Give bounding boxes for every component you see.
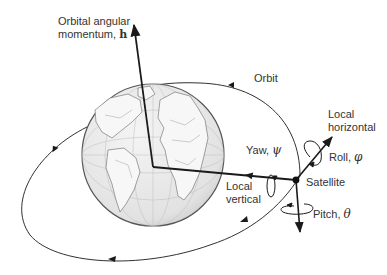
local-horizontal-label: Local horizontal	[328, 108, 376, 134]
angular-momentum-label-line2: momentum, h	[58, 28, 130, 41]
pitch-text: Pitch,	[313, 208, 344, 220]
local-vertical-line1: Local	[226, 180, 261, 193]
pitch-rotation-icon	[281, 203, 313, 214]
roll-symbol: φ	[354, 150, 362, 164]
local-horizontal-line2: horizontal	[328, 121, 376, 134]
yaw-text: Yaw,	[246, 144, 272, 156]
roll-label: Roll, φ	[329, 151, 362, 164]
local-horizontal-vector	[296, 137, 332, 180]
h-symbol: h	[119, 28, 127, 41]
angular-momentum-label: Orbital angular momentum, h	[58, 15, 130, 41]
diagram-graphics	[0, 0, 387, 275]
yaw-label: Yaw, ψ	[246, 144, 282, 157]
pitch-symbol: θ	[344, 207, 351, 221]
satellite-icon	[293, 177, 300, 184]
local-horizontal-line1: Local	[328, 108, 376, 121]
angular-momentum-label-line1: Orbital angular	[58, 15, 130, 28]
yaw-symbol: ψ	[272, 143, 281, 157]
orbit-label: Orbit	[254, 72, 278, 85]
pitch-axis-vector	[296, 180, 300, 232]
local-vertical-line2: vertical	[226, 193, 261, 206]
pitch-label: Pitch, θ	[313, 208, 351, 221]
satellite-attitude-diagram: Orbital angular momentum, h Orbit Local …	[0, 0, 387, 275]
local-vertical-label: Local vertical	[226, 180, 261, 206]
earth-globe-icon	[82, 84, 224, 226]
satellite-label: Satellite	[306, 176, 345, 189]
angular-momentum-text: momentum,	[58, 28, 119, 40]
roll-text: Roll,	[329, 151, 354, 163]
